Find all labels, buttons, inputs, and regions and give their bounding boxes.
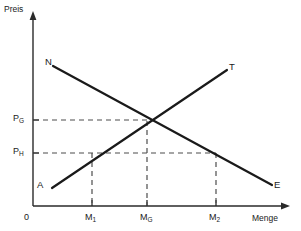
quantity-label-m1: M1 — [85, 213, 96, 222]
diagram-canvas — [0, 0, 301, 231]
quantity-label-mg-subscript: G — [148, 216, 153, 223]
supply-curve-start-label: A — [37, 180, 43, 190]
demand-curve-end-label: E — [274, 180, 280, 190]
supply-curve-end-label: T — [229, 62, 235, 72]
supply-curve — [52, 70, 227, 188]
price-label-pg-subscript: G — [19, 117, 24, 124]
quantity-label-m2-base: M — [209, 212, 217, 222]
demand-curve — [53, 66, 272, 185]
quantity-label-m1-base: M — [85, 212, 93, 222]
quantity-label-m1-subscript: 1 — [93, 216, 97, 223]
x-axis-label: Menge — [252, 214, 278, 223]
origin-label: 0 — [24, 213, 29, 222]
guide-lines — [34, 120, 216, 205]
quantity-label-m2: M2 — [209, 213, 220, 222]
quantity-label-mg-base: M — [140, 212, 148, 222]
quantity-label-m2-subscript: 2 — [217, 216, 221, 223]
price-label-ph: PH — [13, 147, 24, 156]
price-label-pg: PG — [13, 114, 24, 123]
quantity-label-mg: MG — [140, 213, 153, 222]
x-axis-arrow-icon — [281, 203, 290, 210]
y-axis — [30, 11, 37, 206]
y-axis-label: Preis — [4, 5, 23, 14]
y-axis-ticks — [33, 120, 39, 153]
supply-demand-figure: Preis Menge 0 PG PH M1 MG M2 N T A E — [0, 0, 301, 231]
x-axis-ticks — [92, 200, 216, 206]
demand-curve-start-label: N — [45, 57, 52, 67]
y-axis-arrow-icon — [30, 11, 37, 20]
x-axis — [33, 203, 290, 210]
price-label-ph-subscript: H — [19, 150, 24, 157]
